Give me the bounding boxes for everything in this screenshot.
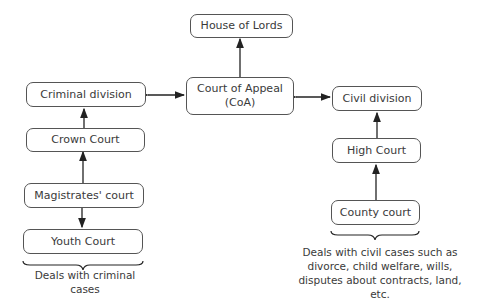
node-label: High Court	[347, 144, 406, 158]
court-of-appeal-node: Court of Appeal (CoA)	[186, 77, 294, 115]
county-court-node: County court	[331, 200, 420, 225]
magistrates-court-node: Magistrates' court	[24, 183, 144, 208]
brace-civil	[331, 231, 419, 240]
civil-note: Deals with civil cases such as divorce, …	[290, 245, 470, 301]
node-label: Youth Court	[51, 235, 115, 249]
civil-division-node: Civil division	[332, 86, 422, 111]
crown-court-node: Crown Court	[26, 128, 145, 152]
node-label: House of Lords	[201, 19, 283, 33]
node-label: Court of Appeal	[197, 82, 283, 96]
civil-note-line: disputes about contracts, land, etc.	[290, 273, 470, 301]
court-hierarchy-diagram: House of Lords Court of Appeal (CoA) Cri…	[0, 0, 479, 302]
node-label: Civil division	[343, 92, 412, 106]
civil-note-line: Deals with civil cases such as	[290, 245, 470, 259]
house-of-lords-node: House of Lords	[190, 14, 293, 38]
criminal-division-node: Criminal division	[26, 82, 146, 107]
node-label: Criminal division	[40, 88, 131, 102]
youth-court-node: Youth Court	[23, 229, 143, 254]
high-court-node: High Court	[332, 138, 421, 163]
node-label: Crown Court	[51, 133, 119, 147]
node-label: Magistrates' court	[34, 189, 134, 203]
civil-note-line: divorce, child welfare, wills,	[290, 259, 470, 273]
node-label-abbr: (CoA)	[225, 96, 256, 110]
criminal-note: Deals with criminal cases	[20, 268, 150, 296]
node-label: County court	[340, 206, 411, 220]
